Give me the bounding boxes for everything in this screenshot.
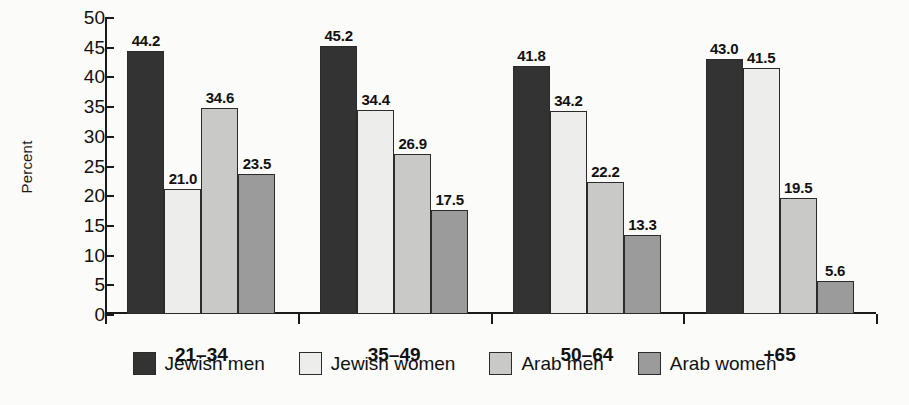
x-axis-tick-mark [105,314,107,324]
bar-value-label: 43.0 [710,40,738,57]
bar: 26.9 [394,154,431,314]
legend-item: Jewish men [133,352,265,375]
bar-value-label: 45.2 [324,27,352,44]
bar-value-label: 13.3 [628,216,656,233]
y-axis-tick-label: 50 [59,8,105,27]
bar-group: 45.234.426.917.5 [298,17,491,314]
chart-legend: Jewish menJewish womenArab menArab women [0,352,909,375]
y-axis-tick-label: 30 [59,126,105,145]
legend-label: Arab men [521,353,603,375]
bar: 41.8 [513,66,550,314]
legend-swatch [133,352,156,375]
legend-swatch [299,352,322,375]
bar: 13.3 [624,235,661,314]
bar-value-label: 19.5 [784,179,812,196]
bar-value-label: 34.2 [554,92,582,109]
bar: 44.2 [127,51,164,314]
y-axis-tick-label: 35 [59,97,105,116]
x-axis-tick-mark [298,314,300,324]
legend-item: Arab women [638,352,777,375]
x-axis-tick-mark [491,314,493,324]
bar: 43.0 [706,59,743,314]
y-axis-tick-labels: 05101520253035404550 [48,0,105,405]
y-axis-tick-label: 5 [59,275,105,294]
bar: 5.6 [817,281,854,314]
bar: 23.5 [238,174,275,314]
legend-swatch [489,352,512,375]
x-axis-tick-mark [683,314,685,324]
legend-swatch [638,352,661,375]
bar: 17.5 [431,210,468,314]
bar-value-label: 21.0 [169,170,197,187]
y-axis-tick-label: 45 [59,37,105,56]
bar: 34.4 [357,110,394,314]
bar: 19.5 [780,198,817,314]
bar-value-label: 5.6 [825,262,845,279]
bar-value-label: 41.5 [747,49,775,66]
bar-value-label: 41.8 [517,47,545,64]
y-axis-tick-label: 20 [59,186,105,205]
legend-label: Arab women [670,353,777,375]
bar: 41.5 [743,68,780,315]
chart-figure: Percent 05101520253035404550 21–3444.221… [0,0,909,405]
bar: 22.2 [587,182,624,314]
bar-value-label: 26.9 [398,135,426,152]
bar: 21.0 [164,189,201,314]
bar-value-label: 44.2 [132,32,160,49]
legend-item: Arab men [489,352,603,375]
legend-item: Jewish women [299,352,456,375]
bar-group: 41.834.222.213.3 [491,17,684,314]
bar-value-label: 23.5 [243,155,271,172]
bar-value-label: 34.4 [361,91,389,108]
legend-label: Jewish women [331,353,456,375]
bar: 45.2 [320,46,357,314]
bar: 34.6 [201,108,238,314]
y-axis-tick-label: 0 [59,305,105,324]
y-axis-title: Percent [18,122,35,212]
bar-group: 44.221.034.623.5 [105,17,298,314]
y-axis-tick-label: 25 [59,156,105,175]
y-axis-tick-label: 40 [59,67,105,86]
legend-label: Jewish men [165,353,265,375]
bar: 34.2 [550,111,587,314]
y-axis-tick-label: 15 [59,215,105,234]
bar-group: 43.041.519.55.6 [683,17,876,314]
bar-value-label: 17.5 [435,191,463,208]
bar-value-label: 34.6 [206,89,234,106]
bar-value-label: 22.2 [591,163,619,180]
y-axis-tick-label: 10 [59,245,105,264]
x-axis-tick-mark [876,314,878,324]
plot-area: 21–3444.221.034.623.535–4945.234.426.917… [105,17,876,314]
